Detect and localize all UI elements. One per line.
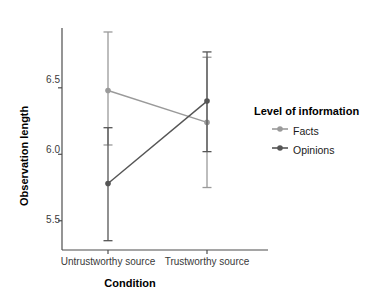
legend-key-marker-opinions <box>277 145 283 151</box>
series-line-opinions <box>108 101 207 183</box>
legend-key-opinions[interactable] <box>272 145 288 151</box>
legend-key-marker-facts <box>277 126 283 132</box>
legend-keys <box>272 126 288 151</box>
axis-lines <box>62 28 268 250</box>
plot-canvas <box>0 0 379 301</box>
data-point-opinions-0[interactable] <box>105 181 111 187</box>
legend-key-facts[interactable] <box>272 126 288 132</box>
data-series-layer <box>104 32 212 241</box>
x-axis-ticks <box>108 250 207 254</box>
series-facts <box>104 32 212 188</box>
data-point-facts-0[interactable] <box>105 88 111 94</box>
series-opinions <box>104 52 212 241</box>
series-line-facts <box>108 90 207 122</box>
data-point-opinions-1[interactable] <box>204 98 210 104</box>
interaction-plot-figure: Observation length 6.5 6.0 5.5 Untrustwo… <box>0 0 379 301</box>
